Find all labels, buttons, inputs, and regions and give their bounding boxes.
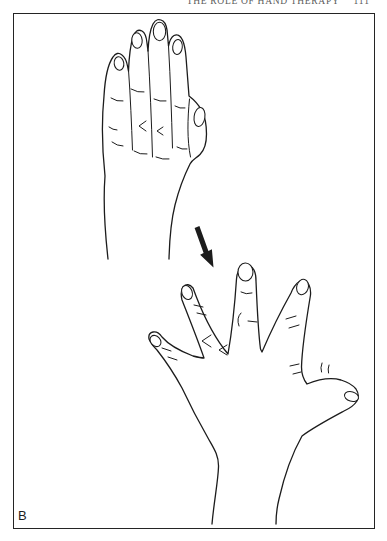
book-page: THE ROLE OF HAND THERAPY111 B [0, 0, 387, 541]
fingernail [153, 22, 165, 40]
hand-fingers-together-illustration [103, 20, 207, 259]
top-hand-outline [103, 20, 207, 259]
figure-illustration [0, 0, 387, 541]
figure-label: B [18, 508, 27, 523]
hand-fingers-spread-illustration [148, 263, 360, 524]
bottom-hand-outline [149, 265, 358, 524]
fingernail [238, 263, 254, 282]
arrow-down-right-icon [195, 226, 214, 268]
